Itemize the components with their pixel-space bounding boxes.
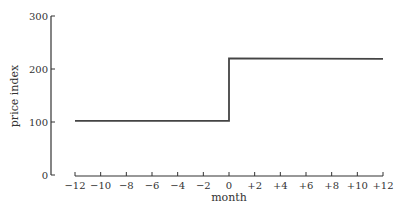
x-tick-label: −4 (170, 180, 185, 191)
x-tick-label: −2 (196, 180, 211, 191)
series (75, 58, 383, 121)
y-tick-label: 300 (29, 11, 48, 22)
x-tick-label: +4 (273, 180, 288, 191)
y-tick-label: 200 (29, 64, 48, 75)
x-tick-label: +12 (372, 180, 393, 191)
x-tick-label: 0 (226, 180, 232, 191)
y-tick-label: 0 (42, 170, 48, 181)
chart: 0100200300 −12−10−8−6−4−20+2+4+6+8+10+12… (0, 0, 402, 211)
price-index-line (75, 58, 383, 121)
x-tick-label: −6 (145, 180, 160, 191)
x-tick-label: −12 (64, 180, 85, 191)
x-tick-label: −10 (90, 180, 111, 191)
x-tick-label: +8 (324, 180, 339, 191)
x-tick-label: +2 (247, 180, 262, 191)
x-axis: −12−10−8−6−4−20+2+4+6+8+10+12 (64, 172, 393, 191)
x-axis-label: month (211, 191, 247, 204)
y-axis: 0100200300 (29, 11, 55, 181)
y-tick-label: 100 (29, 117, 48, 128)
x-tick-label: +10 (347, 180, 368, 191)
x-tick-label: −8 (119, 180, 134, 191)
y-axis-label: price index (8, 64, 21, 127)
x-tick-label: +6 (299, 180, 314, 191)
